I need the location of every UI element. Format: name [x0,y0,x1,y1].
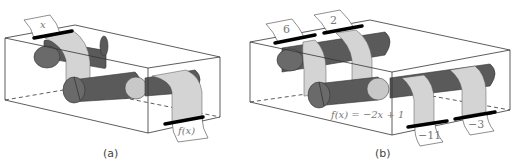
cylinder-end-light [367,78,389,100]
tape-output-2 [450,66,486,116]
box-top-edge [148,57,220,68]
input-label-x: x [40,19,46,30]
output-label-fx: f(x) [177,125,195,136]
input-value-1: 6 [283,23,290,36]
panel-a: x f(x) (a) [5,15,220,160]
caption-b: (b) [375,147,391,160]
function-label: f(x) = −2x + 1 [330,109,404,120]
tape-output [152,70,202,122]
function-machine-diagram: x f(x) (a) [0,0,511,167]
input-value-2: 2 [330,14,337,27]
output-value-2: −3 [468,118,484,131]
cylinder-end-light [125,77,147,99]
output-value-1: −11 [418,129,441,142]
caption-a: (a) [103,147,118,160]
tape-output-1 [402,75,434,126]
panel-b: 6 2 f(x) = −2x + 1 −11 −3 (b) [250,10,510,160]
